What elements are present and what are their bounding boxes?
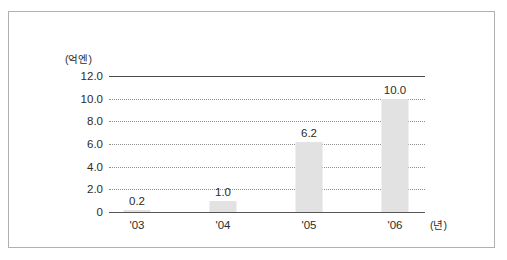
x-axis-unit-label: (년) <box>430 220 447 231</box>
bar-value-03: 0.2 <box>129 196 145 208</box>
bar-value-05: 6.2 <box>301 128 317 140</box>
chart-frame: (억엔) 12.0 10.0 8.0 6.0 4.0 2.0 0 <box>8 11 495 248</box>
y-axis-unit-label: (억엔) <box>65 54 92 65</box>
bar-04 <box>210 201 237 212</box>
bar-value-04: 1.0 <box>215 187 231 199</box>
bar-value-06: 10.0 <box>384 85 406 97</box>
y-tick-label-10: 10.0 <box>59 94 103 106</box>
gridline-2: 2.0 <box>109 189 425 190</box>
x-tick-label-03: '03 <box>130 220 145 232</box>
bar-05 <box>296 142 323 212</box>
gridline-12: 12.0 <box>109 76 425 77</box>
y-tick-label-4: 4.0 <box>59 162 103 174</box>
x-tick-label-04: '04 <box>216 220 231 232</box>
bar-03 <box>124 210 151 212</box>
plot-area: 12.0 10.0 8.0 6.0 4.0 2.0 0 <box>109 76 425 212</box>
x-tick-label-05: '05 <box>302 220 317 232</box>
chart-figure: (억엔) 12.0 10.0 8.0 6.0 4.0 2.0 0 <box>0 0 507 260</box>
x-axis-baseline: 0 <box>109 212 425 213</box>
y-tick-label-2: 2.0 <box>59 185 103 197</box>
y-tick-label-0: 0 <box>59 207 103 219</box>
y-tick-label-8: 8.0 <box>59 117 103 129</box>
gridline-10: 10.0 <box>109 99 425 100</box>
gridline-4: 4.0 <box>109 167 425 168</box>
y-tick-label-6: 6.0 <box>59 139 103 151</box>
x-tick-label-06: '06 <box>388 220 403 232</box>
bar-06 <box>382 99 409 212</box>
y-tick-label-12: 12.0 <box>59 71 103 83</box>
gridline-8: 8.0 <box>109 121 425 122</box>
gridline-6: 6.0 <box>109 144 425 145</box>
